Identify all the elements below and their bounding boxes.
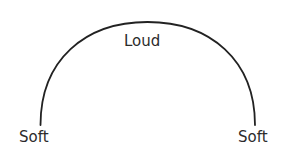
label-loud: Loud xyxy=(124,34,160,49)
label-soft-right: Soft xyxy=(238,130,268,145)
dynamics-arc-diagram: Loud Soft Soft xyxy=(0,0,290,155)
label-soft-left: Soft xyxy=(19,130,49,145)
